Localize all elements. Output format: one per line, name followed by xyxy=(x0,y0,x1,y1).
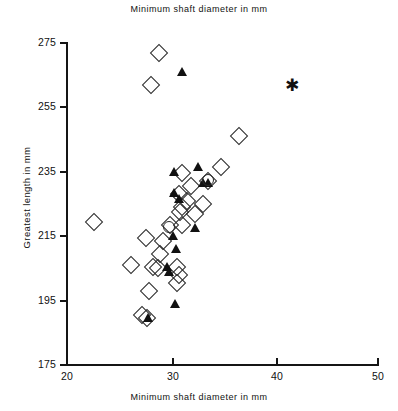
data-point-triangle xyxy=(164,267,174,276)
x-tick-label-40: 40 xyxy=(262,370,292,382)
y-tick-label-195: 195 xyxy=(22,294,56,306)
data-point-circle xyxy=(163,221,175,233)
data-point-diamond xyxy=(150,43,168,61)
y-axis-label: Greatest length in mm xyxy=(21,128,32,268)
data-point-diamond xyxy=(85,213,103,231)
data-point-diamond xyxy=(212,158,230,176)
x-tick-mark-30 xyxy=(172,358,174,366)
y-tick-label-175: 175 xyxy=(22,358,56,370)
scatter-plot-figure: Minimum shaft diameter in mm Greatest le… xyxy=(0,0,398,411)
x-tick-label-20: 20 xyxy=(52,370,82,382)
data-point-diamond xyxy=(142,76,160,94)
y-tick-label-235: 235 xyxy=(22,165,56,177)
data-point-triangle xyxy=(190,223,200,232)
data-point-star: ✱ xyxy=(285,78,299,92)
y-tick-mark-215 xyxy=(60,235,67,237)
x-tick-label-30: 30 xyxy=(158,370,188,382)
y-tick-label-255: 255 xyxy=(22,100,56,112)
x-tick-mark-20 xyxy=(66,358,68,366)
data-point-triangle xyxy=(193,162,203,171)
y-tick-label-215: 215 xyxy=(22,229,56,241)
data-point-diamond xyxy=(122,256,140,274)
y-tick-mark-235 xyxy=(60,171,67,173)
data-point-diamond xyxy=(230,127,248,145)
y-axis-line xyxy=(66,42,68,366)
data-point-triangle xyxy=(143,313,153,322)
y-tick-mark-255 xyxy=(60,106,67,108)
data-point-triangle xyxy=(177,67,187,76)
data-point-triangle xyxy=(169,167,179,176)
y-tick-mark-195 xyxy=(60,300,67,302)
data-point-triangle xyxy=(170,299,180,308)
chart-top-title: Minimum shaft diameter in mm xyxy=(0,4,398,14)
x-tick-mark-40 xyxy=(276,358,278,366)
x-tick-label-50: 50 xyxy=(363,370,393,382)
x-axis-line xyxy=(66,364,379,366)
data-point-circle xyxy=(202,174,214,186)
data-point-triangle xyxy=(171,244,181,253)
x-tick-mark-50 xyxy=(377,358,379,366)
data-point-triangle xyxy=(168,231,178,240)
x-axis-title: Minimum shaft diameter in mm xyxy=(0,392,398,402)
y-tick-label-275: 275 xyxy=(22,36,56,48)
y-tick-mark-275 xyxy=(60,42,67,44)
data-point-diamond xyxy=(140,282,158,300)
data-point-triangle xyxy=(174,194,184,203)
data-point-diamond xyxy=(137,229,155,247)
